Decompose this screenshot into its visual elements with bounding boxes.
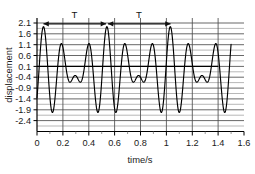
x-axis-title: time/s (127, 154, 152, 165)
y-tick-label: 0.6 (18, 51, 31, 61)
x-tick-label: 0.4 (82, 138, 95, 148)
y-tick-label: -0.4 (15, 72, 31, 82)
y-tick-label: -1.9 (15, 105, 31, 115)
y-tick-label: -0.9 (15, 83, 31, 93)
x-tick-label: 1 (164, 138, 169, 148)
y-tick-label: 0.1 (18, 62, 31, 72)
y-axis-title: displacement (3, 47, 14, 103)
x-tick-label: 1.4 (212, 138, 225, 148)
x-tick-label: 0.8 (134, 138, 147, 148)
period-label-T2: T (136, 9, 142, 20)
x-tick-label: 1.6 (238, 138, 251, 148)
y-tick-label: -2.4 (15, 116, 31, 126)
x-tick-label: 0.6 (108, 138, 121, 148)
y-tick-label: -1.4 (15, 94, 31, 104)
displacement-time-chart: 2.1 1.6 1.1 0.6 0.1 -0.4 -0.9 -1.4 -1.9 … (0, 0, 255, 174)
chart-figure: 2.1 1.6 1.1 0.6 0.1 -0.4 -0.9 -1.4 -1.9 … (0, 0, 255, 174)
y-tick-label: 2.1 (18, 18, 31, 28)
y-axis-tick-labels: 2.1 1.6 1.1 0.6 0.1 -0.4 -0.9 -1.4 -1.9 … (15, 18, 31, 126)
y-tick-label: 1.1 (18, 40, 31, 50)
x-tick-label: 0 (34, 138, 39, 148)
x-tick-label: 0.2 (57, 138, 70, 148)
y-tick-label: 1.6 (18, 29, 31, 39)
x-axis-tick-labels: 0 0.2 0.4 0.6 0.8 1 1.2 1.4 1.6 (34, 138, 250, 148)
period-label-T1: T (72, 9, 78, 20)
x-tick-label: 1.2 (186, 138, 199, 148)
